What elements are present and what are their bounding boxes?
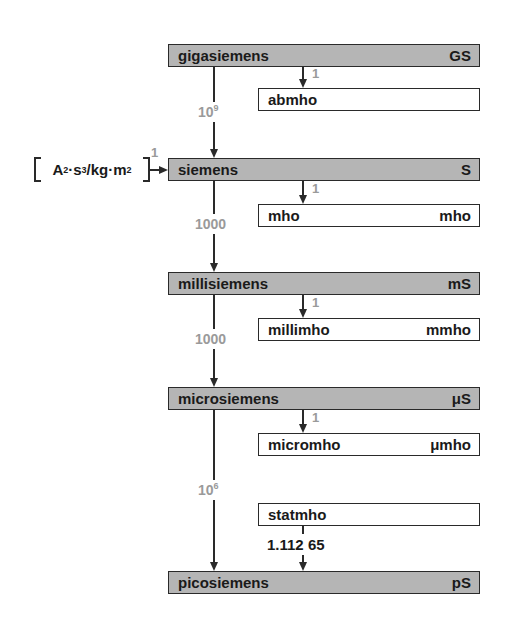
- unit-box-gigasiemens: gigasiemens GS: [168, 44, 480, 67]
- unit-symbol: mho: [439, 207, 471, 224]
- unit-symbol: μS: [452, 390, 471, 407]
- unit-box-micromho: micromho μmho: [258, 433, 480, 456]
- unit-name: micromho: [268, 436, 341, 453]
- si-base-factor: 1: [151, 145, 158, 160]
- arrow-down-icon: [299, 309, 307, 318]
- unit-box-microsiemens: microsiemens μS: [168, 387, 480, 410]
- si-base-units-bracket: A2·s3/kg·m2: [34, 157, 150, 182]
- arrow-down-icon: [210, 149, 218, 158]
- unit-name: microsiemens: [178, 390, 279, 407]
- equiv-connector: [302, 410, 304, 424]
- unit-box-abmho: abmho: [258, 88, 480, 111]
- factor-milli-to-micro: 1000: [195, 329, 226, 349]
- arrow-down-icon: [210, 562, 218, 571]
- factor-giga-to-base: 109: [198, 102, 219, 122]
- unit-box-siemens: siemens S: [168, 158, 480, 181]
- unit-name: gigasiemens: [178, 47, 269, 64]
- unit-box-millimho: millimho mmho: [258, 318, 480, 341]
- equiv-factor: 1: [312, 181, 319, 196]
- unit-box-mho: mho mho: [258, 204, 480, 227]
- unit-name: siemens: [178, 161, 238, 178]
- unit-symbol: mS: [448, 275, 471, 292]
- arrow-down-icon: [210, 378, 218, 387]
- unit-name: mho: [268, 207, 300, 224]
- arrow-down-icon: [299, 195, 307, 204]
- arrow-down-icon: [299, 79, 307, 88]
- arrow-right-icon: [159, 166, 168, 174]
- factor-base-to-milli: 1000: [195, 214, 226, 234]
- unit-name: abmho: [268, 91, 317, 108]
- equiv-connector: [302, 295, 304, 309]
- equiv-factor: 1: [312, 66, 319, 81]
- arrow-down-icon: [299, 424, 307, 433]
- unit-symbol: S: [461, 161, 471, 178]
- arrow-down-icon: [299, 562, 307, 571]
- equiv-factor: 1: [312, 295, 319, 310]
- factor-micro-to-pico: 106: [198, 480, 219, 500]
- unit-symbol: μmho: [430, 436, 471, 453]
- unit-box-millisiemens: millisiemens mS: [168, 272, 480, 295]
- equiv-connector: [302, 181, 304, 195]
- statmho-factor: 1.112 65: [266, 534, 326, 555]
- unit-name: picosiemens: [178, 574, 269, 591]
- equiv-connector: [302, 67, 304, 79]
- unit-symbol: pS: [452, 574, 471, 591]
- unit-symbol: mmho: [426, 321, 471, 338]
- unit-name: statmho: [268, 506, 326, 523]
- arrow-down-icon: [210, 263, 218, 272]
- equiv-factor: 1: [312, 410, 319, 425]
- unit-name: millisiemens: [178, 275, 268, 292]
- unit-box-statmho: statmho: [258, 503, 480, 526]
- unit-box-picosiemens: picosiemens pS: [168, 571, 480, 594]
- unit-name: millimho: [268, 321, 330, 338]
- unit-symbol: GS: [449, 47, 471, 64]
